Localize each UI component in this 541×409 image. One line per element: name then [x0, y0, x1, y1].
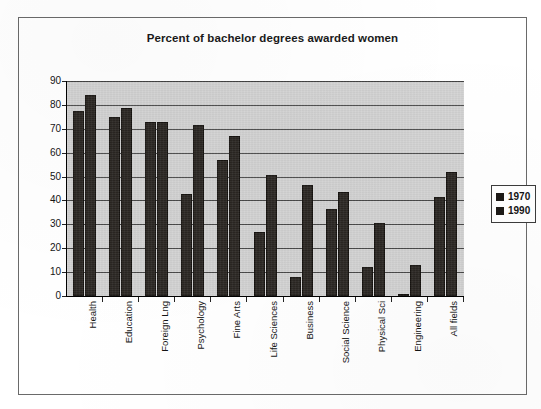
- bar-group: [145, 81, 169, 296]
- bar-group: [109, 81, 133, 296]
- x-axis-category-label: Life Sciences: [269, 301, 279, 358]
- bar-group: [362, 81, 386, 296]
- x-axis-category-label: Social Science: [341, 301, 351, 363]
- bar-1990[interactable]: [229, 136, 240, 296]
- bar-1970[interactable]: [145, 122, 156, 296]
- bar-1990[interactable]: [338, 192, 349, 296]
- bar-1990[interactable]: [85, 95, 96, 296]
- x-axis-tick-mark: [463, 297, 464, 302]
- legend-swatch-icon: [496, 193, 504, 201]
- x-axis-category-label: Foreign Lng: [160, 301, 170, 352]
- legend-label: 1970: [508, 192, 530, 202]
- chart-legend[interactable]: 1970 1990: [491, 185, 536, 223]
- bar-group: [73, 81, 97, 296]
- bar-group: [181, 81, 205, 296]
- y-axis-tick-label: 20: [50, 243, 61, 253]
- legend-swatch-icon: [496, 207, 504, 215]
- x-axis-category-label: Health: [88, 301, 98, 328]
- y-axis-tick-label: 60: [50, 148, 61, 158]
- x-axis-category-labels: HealthEducationForeign LngPsychologyFine…: [66, 301, 463, 396]
- chart-title: Percent of bachelor degrees awarded wome…: [19, 32, 526, 44]
- bar-1990[interactable]: [410, 265, 421, 296]
- bar-1990[interactable]: [374, 223, 385, 296]
- y-axis-tick-label: 70: [50, 124, 61, 134]
- y-axis-tick-labels: 0102030405060708090: [37, 81, 61, 296]
- bar-1990[interactable]: [266, 175, 277, 296]
- bar-group: [326, 81, 350, 296]
- bar-1970[interactable]: [254, 232, 265, 297]
- chart-frame: Percent of bachelor degrees awarded wome…: [18, 17, 527, 395]
- legend-item-1970[interactable]: 1970: [496, 190, 530, 204]
- y-axis-tick-label: 40: [50, 195, 61, 205]
- bar-group: [290, 81, 314, 296]
- x-axis-category-label: Physical Sci: [377, 301, 387, 352]
- bar-1990[interactable]: [193, 125, 204, 296]
- bar-1990[interactable]: [157, 122, 168, 296]
- x-axis-category-label: Education: [124, 301, 134, 343]
- bar-1970[interactable]: [326, 209, 337, 296]
- bar-1970[interactable]: [434, 197, 445, 296]
- bar-group: [254, 81, 278, 296]
- chart-screenshot: Percent of bachelor degrees awarded wome…: [0, 0, 541, 409]
- legend-label: 1990: [508, 206, 530, 216]
- bar-group: [434, 81, 458, 296]
- bar-1970[interactable]: [73, 111, 84, 296]
- bar-1970[interactable]: [217, 160, 228, 296]
- bar-group: [217, 81, 241, 296]
- x-axis-category-label: Business: [305, 301, 315, 340]
- bar-1990[interactable]: [302, 185, 313, 296]
- y-axis-tick-label: 0: [55, 291, 61, 301]
- bar-1970[interactable]: [398, 294, 409, 296]
- y-axis-tick-label: 10: [50, 267, 61, 277]
- bar-1970[interactable]: [362, 267, 373, 296]
- x-axis-category-label: Psychology: [196, 301, 206, 350]
- x-axis-category-label: Fine Arts: [232, 301, 242, 339]
- x-axis-category-label: All fields: [449, 301, 459, 336]
- bar-1970[interactable]: [181, 194, 192, 296]
- y-axis-tick-label: 50: [50, 172, 61, 182]
- bar-1970[interactable]: [290, 277, 301, 296]
- bar-group: [398, 81, 422, 296]
- x-axis-category-label: Engineering: [413, 301, 423, 352]
- y-axis-tick-label: 90: [50, 76, 61, 86]
- bar-1990[interactable]: [446, 172, 457, 296]
- legend-item-1990[interactable]: 1990: [496, 204, 530, 218]
- bar-1970[interactable]: [109, 117, 120, 296]
- y-axis-tick-label: 80: [50, 100, 61, 110]
- bar-1990[interactable]: [121, 108, 132, 296]
- plot-area: [66, 81, 464, 297]
- y-axis-tick-label: 30: [50, 219, 61, 229]
